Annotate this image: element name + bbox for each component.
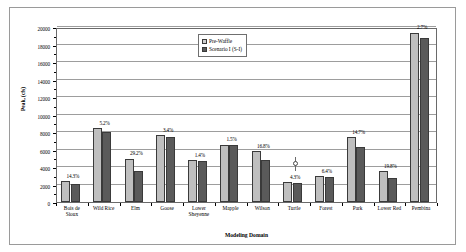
bar-pre-waffle <box>188 160 197 202</box>
bar-pre-waffle <box>410 33 419 202</box>
turtle-marker-annotation-icon <box>292 157 299 171</box>
bar-value-label: 3.4% <box>152 128 184 133</box>
bar-pre-waffle <box>252 151 261 202</box>
x-axis-category-label: Forest <box>310 205 342 211</box>
bar-value-label: 14.7% <box>343 130 375 135</box>
bar-value-label: 14.3% <box>57 174 89 179</box>
bar-scenario-i <box>388 178 397 203</box>
bar-scenario-i <box>293 183 302 202</box>
x-axis-category-label: Elm <box>120 205 152 211</box>
category-label-line: Elm <box>120 205 152 211</box>
category-label-line: Goose <box>151 205 183 211</box>
bar-value-label: 19.8% <box>375 164 407 169</box>
bar-pre-waffle <box>156 135 165 202</box>
bar-pre-waffle <box>220 145 229 202</box>
x-axis-category-label: Bois deSioux <box>56 205 88 218</box>
bar-scenario-i <box>261 160 270 202</box>
y-axis-tick-label: 6000 <box>40 149 50 152</box>
x-axis-category-label: LowerSheyenne <box>183 205 215 218</box>
bar-value-label: 1.4% <box>184 153 216 158</box>
bar-scenario-i <box>166 137 175 202</box>
x-axis-category-label: Wilson <box>247 205 279 211</box>
y-axis-tick-label: 12000 <box>38 97 50 100</box>
x-axis-tick-mark <box>437 203 438 206</box>
y-axis-tick-labels: 0200040006000800010000120001400016000180… <box>10 28 54 203</box>
y-axis-tick-label: 14000 <box>38 79 50 82</box>
bar-scenario-i <box>356 147 365 202</box>
marker-dot <box>293 161 298 166</box>
bar-group: 2.7% <box>406 29 438 202</box>
x-axis-category-label: Park <box>342 205 374 211</box>
bar-pre-waffle <box>61 181 70 202</box>
bar-group: 3.4% <box>152 29 184 202</box>
bar-scenario-i <box>134 171 143 202</box>
bar-value-label: 4.3% <box>279 175 311 180</box>
bar-group: 16.8% <box>248 29 280 202</box>
bar-pre-waffle <box>379 171 388 202</box>
bar-scenario-i <box>229 145 238 202</box>
category-label-line: Pembina <box>405 205 437 211</box>
x-axis-category-label: Goose <box>151 205 183 211</box>
category-label-line: Wild Rice <box>88 205 120 211</box>
x-axis-category-label: Wild Rice <box>88 205 120 211</box>
bar-scenario-i <box>198 161 207 202</box>
bar-pre-waffle <box>315 176 324 202</box>
x-axis-category-label: Turtle <box>278 205 310 211</box>
x-axis-category-labels: Bois deSiouxWild RiceElmGooseLowerSheyen… <box>56 205 437 231</box>
bar-group: 14.3% <box>57 29 89 202</box>
legend-swatch-icon <box>202 39 207 44</box>
bar-value-label: 16.8% <box>248 144 280 149</box>
gridline <box>57 26 436 27</box>
bar-value-label: 2.7% <box>406 25 438 30</box>
category-label-line: Turtle <box>278 205 310 211</box>
x-axis-category-label: Mapple <box>215 205 247 211</box>
bar-group: 14.7% <box>343 29 375 202</box>
x-axis-title: Modeling Domain <box>56 232 437 238</box>
x-axis-category-label: Pembina <box>405 205 437 211</box>
bar-value-label: 1.5% <box>216 137 248 142</box>
legend-label: Scenario I (S-I) <box>209 47 242 52</box>
figure-frame: 0200040006000800010000120001400016000180… <box>9 7 456 245</box>
y-axis-tick-label: 10000 <box>38 114 50 117</box>
bar-value-label: 5.2% <box>89 121 121 126</box>
bar-pre-waffle <box>93 128 102 202</box>
y-axis-tick-label: 2000 <box>40 184 50 187</box>
category-label-line: Park <box>342 205 374 211</box>
legend-item-scenario-i: Scenario I (S-I) <box>202 46 242 54</box>
bar-pre-waffle <box>125 159 134 202</box>
x-axis-category-label: Lower Red <box>374 205 406 211</box>
chart-page: 0200040006000800010000120001400016000180… <box>0 0 466 252</box>
y-axis-tick-label: 0 <box>48 202 51 205</box>
bar-pre-waffle <box>283 182 292 202</box>
category-label-line: Sheyenne <box>183 211 215 217</box>
category-label-line: Sioux <box>56 211 88 217</box>
bar-group: 19.8% <box>375 29 407 202</box>
chart-legend: Pre-Waffle Scenario I (S-I) <box>198 34 247 57</box>
legend-label: Pre-Waffle <box>209 39 232 44</box>
y-axis-tick-label: 18000 <box>38 44 50 47</box>
legend-swatch-icon <box>202 47 207 52</box>
y-axis-tick-label: 16000 <box>38 62 50 65</box>
y-axis-tick-label: 8000 <box>40 132 50 135</box>
category-label-line: Lower Red <box>374 205 406 211</box>
category-label-line: Forest <box>310 205 342 211</box>
bar-group: 29.2% <box>121 29 153 202</box>
bar-group: 4.3% <box>279 29 311 202</box>
bar-pre-waffle <box>347 137 356 202</box>
bar-scenario-i <box>420 38 429 202</box>
y-axis-tick-label: 20000 <box>38 27 50 30</box>
y-axis-title: Peak, (cfs) <box>20 64 26 134</box>
bar-value-label: 6.4% <box>311 169 343 174</box>
bar-scenario-i <box>71 184 80 202</box>
bar-group: 5.2% <box>89 29 121 202</box>
category-label-line: Wilson <box>247 205 279 211</box>
bar-scenario-i <box>325 177 334 202</box>
category-label-line: Mapple <box>215 205 247 211</box>
bar-group: 6.4% <box>311 29 343 202</box>
legend-item-pre-waffle: Pre-Waffle <box>202 38 242 46</box>
bar-scenario-i <box>102 132 111 202</box>
y-axis-tick-label: 4000 <box>40 167 50 170</box>
bar-value-label: 29.2% <box>121 151 153 156</box>
